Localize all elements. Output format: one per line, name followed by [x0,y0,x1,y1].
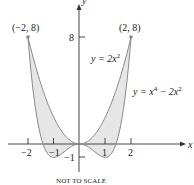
x-axis-arrow-icon [180,142,186,147]
svg-text:−1: −1 [64,152,75,163]
svg-text:−2: −2 [21,147,32,158]
x-axis-label: x [187,139,193,150]
y-tick-8: 8 [69,32,85,43]
x-tick-neg2: −2 [21,138,32,158]
point-2-8-marker [129,35,133,39]
y-axis-arrow-icon [77,4,82,10]
y-axis-label: y [81,0,87,6]
point-2-8-label: (2, 8) [119,22,141,34]
svg-text:1: 1 [102,147,107,158]
x-tick-2: 2 [128,138,133,158]
equation-upper-label: y = 2x2 [90,52,121,64]
equation-lower-label: y = x4 − 2x2 [132,85,182,97]
svg-text:8: 8 [69,32,74,43]
area-between-curves-diagram: x y −2 −1 1 2 8 −1 [0,0,194,185]
svg-text:2: 2 [128,147,133,158]
point-neg2-8-label: (−2, 8) [12,22,39,34]
point-neg2-8-marker [26,35,30,39]
y-tick-neg1: −1 [64,152,85,163]
diagram-canvas: x y −2 −1 1 2 8 −1 [0,0,194,185]
not-to-scale-note: NOT TO SCALE [56,177,106,185]
